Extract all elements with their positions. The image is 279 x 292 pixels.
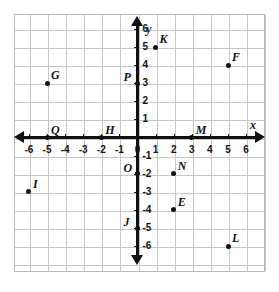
plotted-point <box>226 63 231 68</box>
y-tick-label: -4 <box>143 204 152 215</box>
y-axis-arrow-up <box>131 16 143 26</box>
x-axis-arrow-left <box>14 131 24 143</box>
x-tick <box>119 134 120 139</box>
point-label: K <box>160 32 168 47</box>
point-label: O <box>124 161 133 176</box>
x-axis-arrow-right <box>255 131 265 143</box>
x-tick <box>210 134 211 139</box>
y-tick <box>134 29 139 30</box>
y-tick-label: -1 <box>143 150 152 161</box>
x-tick <box>174 134 175 139</box>
x-tick <box>83 134 84 139</box>
point-label: J <box>124 215 130 230</box>
y-axis-arrow-down <box>131 255 143 265</box>
gridline-horizontal <box>15 102 264 103</box>
y-tick-label: -2 <box>143 168 152 179</box>
gridline-horizontal <box>15 265 264 266</box>
x-tick <box>29 134 30 139</box>
y-tick-label: 1 <box>143 113 149 124</box>
gridline-horizontal <box>15 211 264 212</box>
plotted-point <box>45 135 50 140</box>
y-tick <box>134 101 139 102</box>
point-label: N <box>178 159 187 174</box>
x-tick <box>65 134 66 139</box>
point-label: E <box>178 195 186 210</box>
point-label: M <box>196 123 207 138</box>
y-tick <box>134 65 139 66</box>
y-tick <box>134 47 139 48</box>
x-tick <box>246 134 247 139</box>
gridline-horizontal <box>15 120 264 121</box>
y-axis <box>136 25 139 258</box>
plotted-point <box>45 81 50 86</box>
gridline-vertical <box>265 15 266 271</box>
gridline-horizontal <box>15 157 264 158</box>
x-axis-label: x <box>250 118 256 133</box>
y-tick-label: -5 <box>143 222 152 233</box>
x-tick <box>156 134 157 139</box>
y-tick <box>134 210 139 211</box>
x-tick-label: 6 <box>235 144 257 155</box>
gridline-horizontal <box>15 30 264 31</box>
point-label: L <box>232 231 239 246</box>
point-label: H <box>105 123 114 138</box>
plotted-point <box>226 244 231 249</box>
y-tick-label: 3 <box>143 77 149 88</box>
y-tick <box>134 156 139 157</box>
y-tick-label: -3 <box>143 186 152 197</box>
plotted-point <box>153 45 158 50</box>
y-tick <box>134 192 139 193</box>
x-tick <box>228 134 229 139</box>
coordinate-plane: x y -6-5-4-3-2-10123456654321-1-2-3-4-5-… <box>0 0 279 292</box>
y-tick-label: 6 <box>143 23 149 34</box>
point-label: P <box>124 70 131 85</box>
y-tick-label: -6 <box>143 240 152 251</box>
point-label: F <box>232 50 240 65</box>
gridline-horizontal <box>15 193 264 194</box>
y-tick-label: 2 <box>143 95 149 106</box>
plotted-point <box>99 135 104 140</box>
y-tick-label: 4 <box>143 59 149 70</box>
gridline-horizontal <box>15 48 264 49</box>
y-tick <box>134 119 139 120</box>
plotted-point <box>135 81 140 86</box>
y-tick-label: 5 <box>143 41 149 52</box>
point-label: G <box>51 68 60 83</box>
point-label: Q <box>51 123 60 138</box>
point-label: I <box>33 177 38 192</box>
plotted-point <box>135 226 140 231</box>
y-tick <box>134 246 139 247</box>
